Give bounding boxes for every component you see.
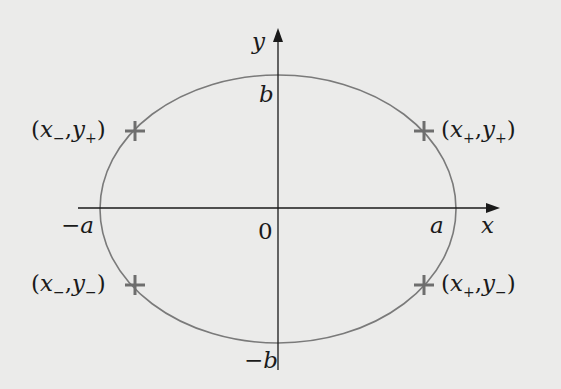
comma: , (475, 272, 482, 295)
x-subscript: − (53, 285, 65, 299)
y-subscript: + (495, 131, 507, 145)
paren-close: ) (507, 272, 516, 295)
comma: , (65, 272, 72, 295)
paren-close: ) (507, 118, 516, 141)
y-symbol: y (482, 272, 495, 295)
y-symbol: y (482, 118, 495, 141)
diagram-graphics (0, 0, 561, 389)
paren-open: ( (441, 272, 450, 295)
ellipse-diagram: y x 0 b −b a −a (x−,y+) (x+,y+) (x−,y−) … (0, 0, 561, 389)
paren-open: ( (31, 272, 40, 295)
paren-close: ) (97, 118, 106, 141)
cross-marker-top-right-icon (414, 121, 434, 141)
x-axis-label: x (481, 214, 494, 237)
a-intercept-label: a (430, 214, 444, 237)
paren-open: ( (441, 118, 450, 141)
y-subscript: − (85, 285, 97, 299)
y-symbol: y (72, 118, 85, 141)
comma: , (65, 118, 72, 141)
y-subscript: − (495, 285, 507, 299)
point-label-bottom-left: (x−,y−) (31, 272, 106, 295)
x-subscript: + (463, 131, 475, 145)
y-axis-label: y (252, 30, 265, 53)
y-axis-arrow-icon (273, 28, 283, 42)
y-subscript: + (85, 131, 97, 145)
neg-b-intercept-label: −b (244, 349, 278, 372)
x-symbol: x (40, 272, 53, 295)
b-intercept-label: b (259, 83, 274, 106)
x-symbol: x (450, 118, 463, 141)
origin-label: 0 (258, 220, 273, 243)
x-subscript: + (463, 285, 475, 299)
x-subscript: − (53, 131, 65, 145)
x-symbol: x (40, 118, 53, 141)
cross-marker-bottom-left-icon (125, 275, 145, 295)
point-label-top-right: (x+,y+) (441, 118, 516, 141)
x-symbol: x (450, 272, 463, 295)
point-label-top-left: (x−,y+) (31, 118, 106, 141)
paren-open: ( (31, 118, 40, 141)
point-label-bottom-right: (x+,y−) (441, 272, 516, 295)
neg-a-intercept-label: −a (61, 214, 94, 237)
paren-close: ) (97, 272, 106, 295)
y-symbol: y (72, 272, 85, 295)
comma: , (475, 118, 482, 141)
